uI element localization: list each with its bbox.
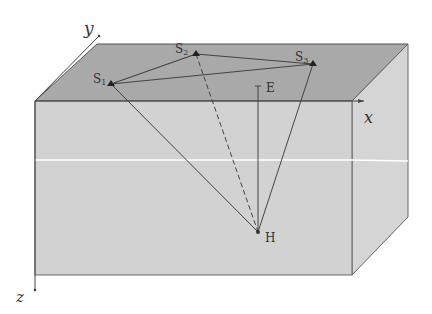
y-axis-tip [98,35,100,37]
front-face [35,101,352,275]
y-axis-label: y [83,18,94,38]
epicenter-label: E [266,81,275,95]
hypocenter-label: H [265,231,275,245]
layer-boundary-side [352,160,408,161]
hypocenter-marker [256,230,260,234]
z-axis-label: z [15,288,24,306]
block-diagram: y x z S1 S2 S3 E H [0,0,432,314]
z-axis-tip [34,289,36,291]
x-axis-label: x [364,108,373,127]
top-face [35,44,408,101]
